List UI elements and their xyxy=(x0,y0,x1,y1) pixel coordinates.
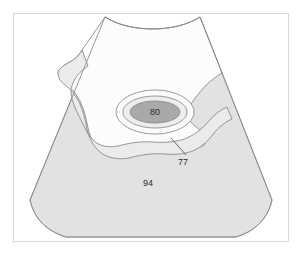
contour-label-94: 94 xyxy=(143,178,153,188)
contour-plot-canvas: 80 77 94 xyxy=(0,0,302,255)
contour-map-figure: 80 77 94 xyxy=(0,0,302,255)
contour-label-77: 77 xyxy=(178,157,188,167)
contour-label-80: 80 xyxy=(150,107,160,117)
